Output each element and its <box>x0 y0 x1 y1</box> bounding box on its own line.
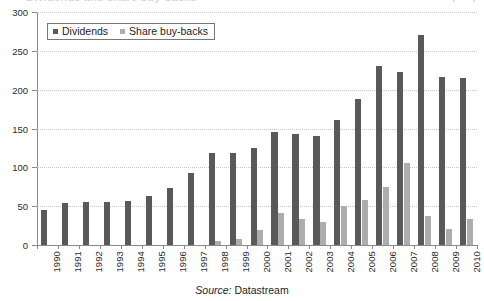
x-axis-tick-label: 1999 <box>240 251 251 273</box>
x-axis-tick <box>100 245 101 249</box>
x-axis-tick <box>184 245 185 249</box>
x-axis-tick <box>121 245 122 249</box>
bar-dividends <box>376 66 382 245</box>
x-axis-tick <box>267 245 268 249</box>
legend-label-dividends: Dividends <box>62 26 108 37</box>
x-axis-tick <box>142 245 143 249</box>
x-axis-tick <box>79 245 80 249</box>
chart-title-units-clipped: (£bn) <box>452 0 476 2</box>
y-axis-tick-label: 200 <box>12 84 28 95</box>
y-axis-tick-label: 100 <box>12 162 28 173</box>
bar-buybacks <box>278 213 284 245</box>
x-axis-tick <box>205 245 206 249</box>
x-axis-tick <box>330 245 331 249</box>
x-axis-tick <box>435 245 436 249</box>
bar-dividends <box>41 210 47 245</box>
bar-dividends <box>313 136 319 245</box>
x-axis-tick-label: 1997 <box>198 251 209 273</box>
y-axis-tick-label: 250 <box>12 45 28 56</box>
bar-dividends <box>251 148 257 245</box>
bar-dividends <box>83 202 89 245</box>
bar-buybacks <box>341 206 347 245</box>
chart-legend: Dividends Share buy-backs <box>47 23 215 40</box>
bar-buybacks <box>299 219 305 245</box>
bar-dividends <box>334 120 340 245</box>
y-axis-tick-label: 300 <box>12 7 28 18</box>
x-axis-tick <box>309 245 310 249</box>
y-axis-tick-label: 50 <box>17 201 28 212</box>
x-axis-line <box>37 245 478 246</box>
legend-swatch-dividends-icon <box>53 29 58 34</box>
x-axis-tick-label: 1990 <box>51 251 62 273</box>
x-axis-tick-label: 2007 <box>408 251 419 273</box>
x-axis-tick <box>477 245 478 249</box>
bar-dividends <box>397 72 403 245</box>
x-axis-tick-label: 2003 <box>324 251 335 273</box>
bar-buybacks <box>362 200 368 245</box>
bar-dividends <box>62 203 68 245</box>
bar-dividends <box>209 153 215 245</box>
bar-dividends <box>271 132 277 245</box>
x-axis-tick <box>226 245 227 249</box>
x-axis-tick <box>288 245 289 249</box>
bar-buybacks <box>257 230 263 245</box>
bar-dividends <box>355 99 361 245</box>
bar-buybacks <box>383 187 389 245</box>
bar-dividends <box>292 134 298 245</box>
x-axis-tick <box>456 245 457 249</box>
x-axis-tick-label: 1996 <box>177 251 188 273</box>
legend-item-dividends: Dividends <box>53 26 108 37</box>
x-axis-tick-label: 1992 <box>93 251 104 273</box>
bar-dividends <box>167 188 173 245</box>
bar-buybacks <box>320 222 326 245</box>
bar-dividends <box>146 196 152 245</box>
x-axis-tick <box>414 245 415 249</box>
y-axis-tick-label: 0 <box>23 240 28 251</box>
x-axis-tick-label: 1994 <box>135 251 146 273</box>
x-axis-tick <box>372 245 373 249</box>
y-axis-tick-label: 150 <box>12 123 28 134</box>
bar-dividends <box>460 78 466 245</box>
legend-label-buybacks: Share buy-backs <box>129 26 208 37</box>
bar-buybacks <box>236 239 242 245</box>
x-axis-tick <box>58 245 59 249</box>
plot-area <box>37 12 477 245</box>
source-prefix: Source: <box>195 284 231 296</box>
bar-buybacks <box>425 216 431 245</box>
x-axis-tick-label: 2006 <box>387 251 398 273</box>
x-axis-tick-label: 2008 <box>429 251 440 273</box>
bar-dividends <box>439 77 445 245</box>
bar-dividends <box>418 35 424 245</box>
source-note: Source: Datastream <box>0 284 484 296</box>
legend-item-buybacks: Share buy-backs <box>120 26 208 37</box>
x-axis-tick-label: 1995 <box>156 251 167 273</box>
bar-dividends <box>230 153 236 245</box>
x-axis-tick-label: 1991 <box>72 251 83 273</box>
x-axis-tick <box>163 245 164 249</box>
bar-buybacks <box>215 241 221 245</box>
x-axis-tick-label: 2004 <box>345 251 356 273</box>
x-axis-tick <box>247 245 248 249</box>
chart-title-clipped: Dividends and share buy-backs <box>26 0 197 3</box>
bar-dividends <box>188 173 194 245</box>
x-axis-tick-label: 2010 <box>471 251 482 273</box>
bar-buybacks <box>467 219 473 245</box>
x-axis-tick-label: 2005 <box>366 251 377 273</box>
x-axis-tick-label: 2001 <box>282 251 293 273</box>
dividends-buybacks-chart: Dividends and share buy-backs (£bn) 0501… <box>0 0 484 301</box>
x-axis-tick <box>351 245 352 249</box>
bar-dividends <box>125 201 131 245</box>
legend-swatch-buybacks-icon <box>120 29 125 34</box>
x-axis-tick-label: 2009 <box>450 251 461 273</box>
bar-buybacks <box>446 229 452 245</box>
x-axis-tick-label: 2000 <box>261 251 272 273</box>
x-axis-tick-label: 1998 <box>219 251 230 273</box>
x-axis-tick-label: 2002 <box>303 251 314 273</box>
bar-dividends <box>104 202 110 245</box>
x-axis-tick <box>393 245 394 249</box>
x-axis-tick-label: 1993 <box>114 251 125 273</box>
x-axis-tick <box>37 245 38 249</box>
source-value: Datastream <box>234 284 288 296</box>
bar-buybacks <box>404 163 410 245</box>
